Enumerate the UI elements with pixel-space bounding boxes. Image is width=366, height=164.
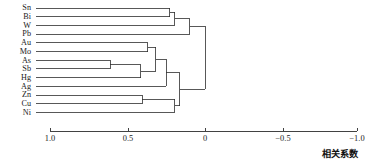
leaf-label-as: As [22,56,31,65]
leaf-label-ni: Ni [23,108,32,117]
x-axis-tick-label-3: −0.5 [275,134,290,143]
leaf-label-au: Au [21,38,31,47]
x-axis-title: 相关系数 [322,148,359,159]
leaf-label-group: SnBiWPbAuMoAsSbHgAgZnCuNi [20,3,32,116]
leaf-label-zn: Zn [22,90,31,99]
x-axis [50,128,357,132]
x-axis-tick-label-1: 0.5 [123,134,133,143]
dendrogram-plot: SnBiWPbAuMoAsSbHgAgZnCuNi 1.00.50−0.5−1.… [0,0,366,164]
dendrogram-chart: SnBiWPbAuMoAsSbHgAgZnCuNi 1.00.50−0.5−1.… [0,0,366,164]
leaf-label-ag: Ag [21,82,31,91]
leaf-label-sb: Sb [22,64,31,73]
leaf-label-hg: Hg [21,73,31,82]
dendrogram-link-group [36,8,205,112]
leaf-label-bi: Bi [23,12,31,21]
x-axis-tick-label-0: 1.0 [45,134,55,143]
leaf-label-sn: Sn [22,3,31,12]
x-axis-tick-label-2: 0 [203,134,207,143]
leaf-label-pb: Pb [22,29,31,38]
leaf-label-cu: Cu [21,99,31,108]
leaf-label-w: W [23,21,31,30]
x-axis-tick-label-group: 1.00.50−0.5−1.0 [45,134,365,143]
x-axis-tick-label-4: −1.0 [349,134,364,143]
leaf-label-mo: Mo [20,47,31,56]
